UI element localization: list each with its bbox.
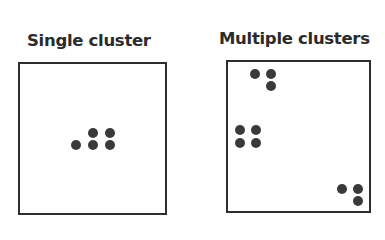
multiple-cluster-1-point bbox=[266, 81, 276, 91]
multiple-cluster-2-point bbox=[235, 138, 245, 148]
single-cluster-title: Single cluster bbox=[27, 33, 151, 50]
multiple-cluster-3-point bbox=[337, 184, 347, 194]
multiple-cluster-2-point bbox=[251, 125, 261, 135]
single-cluster-1-point bbox=[88, 140, 98, 150]
single-cluster-1-point bbox=[71, 140, 81, 150]
single-cluster-1-point bbox=[88, 128, 98, 138]
multiple-cluster-3-point bbox=[353, 184, 363, 194]
multiple-cluster-1-point bbox=[266, 69, 276, 79]
multiple-cluster-3-point bbox=[353, 196, 363, 206]
single-cluster-1-point bbox=[105, 140, 115, 150]
multiple-cluster-2-point bbox=[235, 125, 245, 135]
single-cluster-1-point bbox=[105, 128, 115, 138]
multiple-cluster-1-point bbox=[250, 69, 260, 79]
multiple-cluster-2-point bbox=[251, 138, 261, 148]
multiple-clusters-frame bbox=[226, 60, 371, 213]
single-cluster-frame bbox=[18, 62, 167, 215]
multiple-clusters-title: Multiple clusters bbox=[219, 31, 370, 48]
